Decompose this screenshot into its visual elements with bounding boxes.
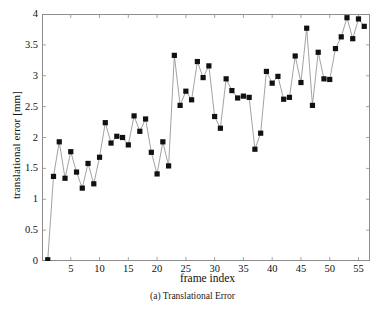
y-tick-label: 2.5 [4,102,38,112]
figure-translational-error: translational error [mm] 00.511.522.533.… [0,0,385,312]
plot-area [42,14,370,261]
y-tick-label: 3 [4,71,38,81]
x-axis-label: frame index [40,272,375,284]
y-axis-tick-labels: 00.511.522.533.54 [0,14,38,261]
y-tick-label: 4 [4,9,38,19]
figure-caption: (a) Translational Error [0,291,385,301]
y-tick-label: 1.5 [4,163,38,173]
y-tick-label: 3.5 [4,40,38,50]
y-tick-label: 1 [4,194,38,204]
plot-svg [42,14,370,261]
y-tick-label: 0.5 [4,225,38,235]
y-tick-label: 0 [4,256,38,266]
y-tick-label: 2 [4,133,38,143]
